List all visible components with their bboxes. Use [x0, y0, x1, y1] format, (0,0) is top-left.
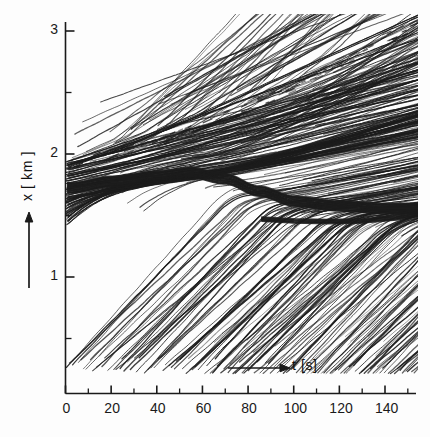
x-tick-label: 40 [147, 400, 169, 416]
x-tick-label: 60 [192, 400, 214, 416]
vehicle-trajectory [77, 162, 80, 163]
x-tick-label: 120 [329, 400, 351, 416]
vehicle-trajectory [417, 18, 427, 22]
trajectory-lines-group [66, 6, 427, 374]
x-tick-label: 140 [375, 400, 397, 416]
x-axis-label: t [s] [292, 357, 318, 373]
y-axis-label-wrap: x [ km ] [6, 140, 40, 220]
x-tick-label: 80 [238, 400, 260, 416]
x-tick-label: 100 [284, 400, 306, 416]
traffic-trajectory-figure: x [ km ] t [s] 020406080100120140 123 [0, 0, 430, 437]
y-tick-label: 1 [44, 267, 58, 283]
y-axis-arrow [25, 212, 33, 288]
vehicle-trajectory [158, 146, 160, 147]
plot-canvas [0, 0, 430, 437]
y-axis-label: x [ km ] [19, 139, 35, 213]
y-tick-label: 3 [44, 21, 58, 37]
x-tick-label: 20 [101, 400, 123, 416]
vehicle-trajectory [254, 231, 421, 352]
x-tick-label: 0 [56, 400, 78, 416]
y-tick-label: 2 [44, 144, 58, 160]
vehicle-trajectory [124, 155, 126, 156]
